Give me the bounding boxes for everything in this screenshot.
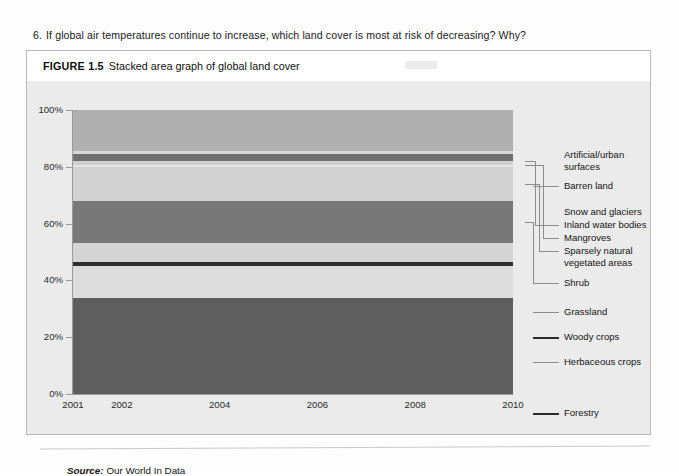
legend-leader-segment <box>543 238 559 239</box>
area-band-sparsely-natural-vegetated-areas <box>73 167 513 201</box>
area-band-herbaceous-crops <box>73 266 513 297</box>
y-tick-mark <box>66 224 72 225</box>
y-axis-line <box>72 110 73 395</box>
legend-label-artificial-urban: Artificial/urban surfaces <box>564 149 624 172</box>
x-tick-label: 2002 <box>111 399 132 410</box>
y-tick-mark <box>66 337 72 338</box>
y-tick-mark <box>66 394 72 395</box>
area-band-forestry <box>73 298 513 394</box>
page-rule <box>40 446 650 450</box>
legend-leader-line <box>533 413 559 415</box>
question-number: 6. <box>33 29 42 41</box>
scan-artifact <box>405 61 437 69</box>
legend-leader-segment <box>535 161 536 225</box>
area-band-grassland <box>73 243 513 262</box>
figure-title: Stacked area graph of global land cover <box>109 60 300 72</box>
x-tick-label: 2001 <box>62 399 83 410</box>
legend-leader-line <box>533 312 559 313</box>
legend-label-woody-crops: Woody crops <box>564 331 619 343</box>
legend-leader-segment <box>539 251 559 252</box>
legend-label-grassland: Grassland <box>564 306 607 318</box>
legend-leader-line <box>533 337 559 339</box>
figure-label: FIGURE 1.5 <box>43 60 104 72</box>
source-text: Our World In Data <box>106 465 185 476</box>
legend-leader-segment <box>525 161 535 162</box>
legend-leader-segment <box>533 222 534 283</box>
legend-leader-line <box>533 186 559 187</box>
legend-label-sparsely-natural: Sparsely natural vegetated areas <box>564 245 633 268</box>
area-band-snow-and-glaciers <box>73 154 513 161</box>
figure-source: Source:Our World In Data <box>67 465 185 476</box>
chart-area: 0%20%40%60%80%100% 200120022004200620082… <box>27 81 650 436</box>
legend-label-barren-land: Barren land <box>564 180 613 192</box>
legend-label-snow-and-glaciers: Snow and glaciers <box>564 206 642 218</box>
x-axis-line <box>72 394 513 395</box>
y-tick-mark <box>66 280 72 281</box>
stacked-area-plot <box>73 110 513 394</box>
legend-leader-segment <box>543 165 544 238</box>
legend-label-mangroves: Mangroves <box>564 232 611 244</box>
source-label: Source: <box>67 465 103 476</box>
legend-leader-segment <box>525 222 533 223</box>
legend-leader-segment <box>533 283 559 284</box>
area-band-artificial-urban-surfaces <box>73 110 513 151</box>
y-tick-label: 60% <box>27 218 63 229</box>
legend-leader-segment <box>539 184 540 251</box>
legend-leader-line <box>533 362 559 363</box>
legend-label-inland-water-bodies: Inland water bodies <box>564 219 646 231</box>
legend-leader-segment <box>525 184 539 185</box>
question-body: If global air temperatures continue to i… <box>46 29 526 41</box>
legend-leader-segment <box>525 165 543 166</box>
y-tick-label: 20% <box>27 331 63 342</box>
figure-box: FIGURE 1.5Stacked area graph of global l… <box>26 50 651 435</box>
y-tick-label: 40% <box>27 274 63 285</box>
y-tick-label: 80% <box>27 161 63 172</box>
x-tick-label: 2006 <box>307 399 328 410</box>
x-tick-label: 2008 <box>405 399 426 410</box>
figure-caption: FIGURE 1.5Stacked area graph of global l… <box>43 60 300 72</box>
chart-legend: Artificial/urban surfacesBarren landSnow… <box>519 81 654 436</box>
y-tick-mark <box>66 167 72 168</box>
legend-label-shrub: Shrub <box>564 277 589 289</box>
question-text: 6.If global air temperatures continue to… <box>33 29 643 41</box>
area-band-shrub <box>73 201 513 244</box>
y-tick-label: 100% <box>27 104 63 115</box>
figure-caption-band: FIGURE 1.5Stacked area graph of global l… <box>27 51 650 81</box>
legend-label-forestry: Forestry <box>564 407 599 419</box>
x-tick-label: 2004 <box>209 399 230 410</box>
legend-label-herbaceous-crops: Herbaceous crops <box>564 356 641 368</box>
y-tick-label: 0% <box>27 388 63 399</box>
y-tick-mark <box>66 110 72 111</box>
